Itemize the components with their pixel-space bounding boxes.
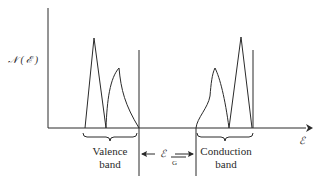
x-axis-label: ℰ xyxy=(299,135,306,146)
gap-symbol: ℰ xyxy=(160,148,167,159)
valence-band-label-line2: band xyxy=(99,158,121,170)
density-of-states-diagram: 𝒩 ( ℰ ) ℰ Valence band Conduction band ℰ… xyxy=(0,0,319,182)
conduction-band-brace xyxy=(197,133,253,141)
valence-band-brace xyxy=(83,133,137,141)
y-axis-label: 𝒩 ( ℰ ) xyxy=(8,54,39,66)
x-axis-arrow-icon xyxy=(306,124,313,132)
conduction-band-curve xyxy=(196,37,252,128)
gap-subscript: G xyxy=(172,159,177,167)
valence-band-label-line1: Valence xyxy=(93,145,128,157)
valence-band-curve xyxy=(85,38,139,128)
conduction-band-label-line2: band xyxy=(215,158,237,170)
conduction-band-label-line1: Conduction xyxy=(200,145,252,157)
